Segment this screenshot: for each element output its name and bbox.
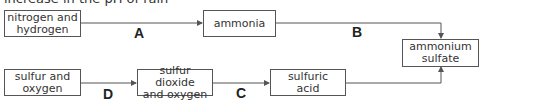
- node-sulfur-dioxide-oxygen: sulfur dioxide and oxygen: [137, 69, 213, 96]
- label-d: D: [103, 86, 113, 102]
- label-c: C: [236, 85, 246, 101]
- node-ammonium-sulfate: ammonium sulfate: [402, 39, 479, 67]
- label-b: B: [352, 24, 362, 40]
- node-ammonia: ammonia: [203, 10, 276, 37]
- node-nitrogen-hydrogen: nitrogen and hydrogen: [4, 10, 81, 37]
- node-sulfur-oxygen: sulfur and oxygen: [4, 69, 81, 96]
- node-sulfuric-acid: sulfuric acid: [270, 69, 346, 96]
- label-a: A: [134, 25, 144, 41]
